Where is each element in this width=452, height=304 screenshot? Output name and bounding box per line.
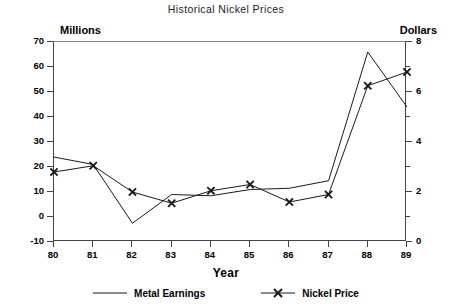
y-tick-label-right: 8	[416, 35, 442, 46]
y-tick-label-left: 40	[18, 110, 44, 121]
x-tick-label: 84	[197, 249, 223, 260]
y-tick-label-right: 0	[416, 235, 442, 246]
series-line-metal-earnings	[54, 52, 407, 223]
legend-item-nickel-price[interactable]: Nickel Price	[261, 287, 359, 299]
series-line-nickel-price	[54, 72, 407, 203]
y-tick-label-right: 4	[416, 135, 442, 146]
x-tick-label: 87	[315, 249, 341, 260]
y-tick-label-left: 70	[18, 35, 44, 46]
left-axis-unit-label: Millions	[60, 24, 101, 36]
legend-label: Nickel Price	[302, 288, 359, 299]
data-point-marker-x	[403, 68, 410, 75]
y-tick-label-left: 50	[18, 85, 44, 96]
y-tick-label-left: 0	[18, 210, 44, 221]
chart-container: Historical Nickel Prices Millions Dollar…	[0, 0, 452, 304]
chart-title: Historical Nickel Prices	[0, 3, 452, 15]
chart-legend: Metal EarningsNickel Price	[0, 287, 452, 299]
x-tick-label: 80	[40, 249, 66, 260]
x-tick-label: 81	[79, 249, 105, 260]
x-tick-label: 83	[158, 249, 184, 260]
plot-area	[53, 41, 406, 241]
y-tick-label-left: 20	[18, 160, 44, 171]
x-tick-label: 89	[393, 249, 419, 260]
y-tick-label-left: 30	[18, 135, 44, 146]
x-tick-label: 86	[275, 249, 301, 260]
legend-label: Metal Earnings	[134, 288, 205, 299]
x-tick-label: 85	[236, 249, 262, 260]
y-tick-label-left: 10	[18, 185, 44, 196]
y-tick-label-right: 2	[416, 185, 442, 196]
y-tick-label-right: 6	[416, 85, 442, 96]
data-point-marker-x	[129, 188, 136, 195]
y-tick-label-left: 60	[18, 60, 44, 71]
y-tick-label-left: -10	[18, 235, 44, 246]
series-lines	[54, 42, 407, 242]
legend-swatch-line-icon	[93, 287, 127, 299]
data-point-marker-x	[364, 82, 371, 89]
x-tick-label: 88	[354, 249, 380, 260]
x-tick-label: 82	[118, 249, 144, 260]
legend-swatch-line-x-icon	[261, 287, 295, 299]
legend-item-metal-earnings[interactable]: Metal Earnings	[93, 287, 205, 299]
x-axis-title: Year	[0, 266, 452, 280]
data-point-marker-x	[168, 200, 175, 207]
